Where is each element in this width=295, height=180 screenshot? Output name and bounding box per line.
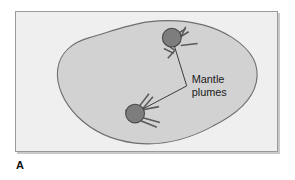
mantle-plumes-label-line2: plumes (192, 86, 228, 98)
figure-frame: Mantle plumes (15, 11, 278, 152)
mantle-plume-diagram: Mantle plumes (16, 12, 277, 151)
mantle-plumes-label-line1: Mantle (192, 73, 225, 85)
upper-plume-circle (162, 28, 181, 47)
lower-plume-circle (126, 104, 145, 123)
panel-letter: A (16, 159, 24, 171)
figure-panel-a: Mantle plumes A (0, 0, 295, 180)
tectonic-plate-shape (57, 21, 257, 144)
